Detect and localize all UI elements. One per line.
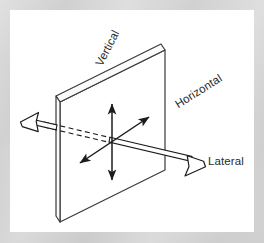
lateral-axis-right-arrowhead bbox=[185, 156, 206, 176]
diagram-canvas bbox=[0, 0, 264, 243]
plane-left-edge bbox=[56, 96, 60, 222]
label-lateral: Lateral bbox=[208, 155, 244, 167]
figure-screenshot: Vertical Horizontal Lateral bbox=[0, 0, 264, 243]
lateral-axis-left-arrowhead bbox=[21, 113, 39, 132]
reference-plane-group bbox=[56, 44, 165, 222]
